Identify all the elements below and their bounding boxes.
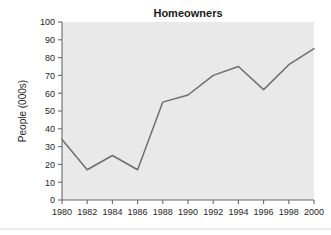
y-axis-title: People (000s) (17, 80, 28, 142)
y-tick-label: 0 (50, 195, 55, 205)
y-tick-label: 10 (45, 178, 55, 188)
chart-figure: Homeowners People (000s) 010203040506070… (0, 0, 331, 235)
y-tick-label: 30 (45, 142, 55, 152)
plot-area-background (62, 22, 314, 200)
x-tick-label: 1986 (128, 207, 148, 217)
x-tick-label: 2000 (304, 207, 324, 217)
x-tick-label-group: 1980198219841986198819901992199419961998… (52, 207, 324, 217)
y-tick-label: 100 (40, 17, 55, 27)
x-tick-label: 1998 (279, 207, 299, 217)
y-tick-label: 70 (45, 71, 55, 81)
x-tick-label: 1994 (228, 207, 248, 217)
x-tick-label: 1988 (153, 207, 173, 217)
y-tick-label: 20 (45, 160, 55, 170)
chart-title: Homeowners (153, 7, 222, 19)
y-tick-label: 40 (45, 124, 55, 134)
x-tick-label: 1992 (203, 207, 223, 217)
y-tick-label: 60 (45, 89, 55, 99)
x-tick-label: 1996 (254, 207, 274, 217)
x-tick-label: 1990 (178, 207, 198, 217)
y-tick-label: 90 (45, 35, 55, 45)
x-tick-label: 1980 (52, 207, 72, 217)
line-chart: Homeowners People (000s) 010203040506070… (0, 0, 331, 235)
y-tick-label: 80 (45, 53, 55, 63)
y-tick-label: 50 (45, 106, 55, 116)
x-tick-label: 1984 (102, 207, 122, 217)
x-tick-label: 1982 (77, 207, 97, 217)
